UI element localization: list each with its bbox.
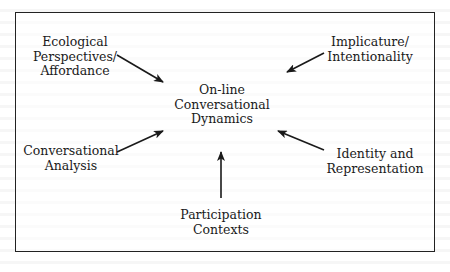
participation-line-2: Contexts xyxy=(180,223,261,238)
center-line-3: Dynamics xyxy=(174,112,270,127)
identity-line-1: Identity and xyxy=(326,147,423,162)
implicature-line-2: Intentionality xyxy=(327,50,413,65)
node-identity: Identity and Representation xyxy=(326,147,423,176)
node-conversational-analysis: Conversational Analysis xyxy=(23,144,119,173)
ecological-line-1: Ecological xyxy=(33,35,117,50)
ecological-line-2: Perspectives/ xyxy=(33,50,117,65)
node-center: On-line Conversational Dynamics xyxy=(174,83,270,127)
arrow-identity-to-center xyxy=(278,131,324,150)
identity-line-2: Representation xyxy=(326,162,423,177)
node-participation: Participation Contexts xyxy=(180,208,261,237)
arrow-conversational-analysis-to-center xyxy=(117,131,163,152)
conversational-analysis-line-1: Conversational xyxy=(23,144,119,159)
ecological-line-3: Affordance xyxy=(33,64,117,79)
implicature-line-1: Implicature/ xyxy=(327,35,413,50)
conversational-analysis-line-2: Analysis xyxy=(23,159,119,174)
node-ecological: Ecological Perspectives/ Affordance xyxy=(33,35,117,79)
center-line-1: On-line xyxy=(174,83,270,98)
arrow-ecological-to-center xyxy=(117,55,163,82)
node-implicature: Implicature/ Intentionality xyxy=(327,35,413,64)
arrow-implicature-to-center xyxy=(287,53,324,72)
center-line-2: Conversational xyxy=(174,98,270,113)
participation-line-1: Participation xyxy=(180,208,261,223)
